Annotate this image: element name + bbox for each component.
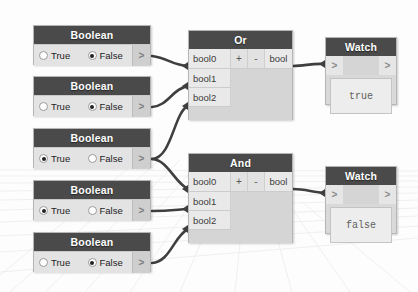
radio-selected-icon[interactable] — [39, 154, 48, 163]
boolean-node-5-true-option[interactable]: True — [39, 257, 84, 268]
boolean-node-2-false-option[interactable]: False — [88, 101, 133, 112]
boolean-node-3-title: Boolean — [34, 129, 150, 147]
wire-bool3-to-and-bool0 — [152, 159, 188, 189]
wire-or-to-watch1 — [293, 64, 325, 66]
or-node-add-port-button[interactable]: + — [231, 49, 248, 68]
boolean-node-1-false-option[interactable]: False — [88, 50, 133, 61]
boolean-node-1-true-label: True — [51, 50, 70, 61]
watch-node-2-title: Watch — [326, 167, 396, 185]
boolean-node-2-true-option[interactable]: True — [39, 101, 84, 112]
and-node-top-row: bool0 + - bool — [189, 172, 292, 192]
boolean-node-4-output-port[interactable]: > — [132, 200, 150, 221]
and-node-input-bool0[interactable]: bool0 — [189, 172, 231, 191]
and-node-input-bool1[interactable]: bool1 — [189, 192, 231, 211]
boolean-node-3-true-label: True — [51, 153, 70, 164]
boolean-node-4-title: Boolean — [34, 181, 150, 199]
radio-unselected-icon[interactable] — [39, 51, 48, 60]
wire-bool4-to-and-bool1 — [152, 209, 188, 211]
radio-unselected-icon[interactable] — [88, 206, 97, 215]
boolean-node-2-false-label: False — [100, 101, 123, 112]
watch-node-2-ports: > > — [326, 185, 396, 204]
radio-selected-icon[interactable] — [39, 206, 48, 215]
boolean-node-2-title: Boolean — [34, 77, 150, 95]
boolean-node-4-false-option[interactable]: False — [88, 205, 133, 216]
watch-node-1-value: true — [330, 78, 392, 114]
boolean-node-1-title: Boolean — [34, 26, 150, 44]
boolean-node-3-radio-group[interactable]: True False — [34, 153, 132, 164]
watch-node-1[interactable]: Watch > > true — [325, 37, 397, 105]
watch-node-1-output-port[interactable]: > — [379, 56, 396, 75]
or-node-top-row: bool0 + - bool — [189, 49, 292, 69]
boolean-node-5-row: True False > — [34, 251, 150, 273]
boolean-node-4-radio-group[interactable]: True False — [34, 205, 132, 216]
boolean-node-3[interactable]: Boolean True False > — [33, 128, 151, 168]
boolean-node-1-row: True False > — [34, 44, 150, 66]
boolean-node-3-true-option[interactable]: True — [39, 153, 84, 164]
radio-unselected-icon[interactable] — [88, 154, 97, 163]
radio-unselected-icon[interactable] — [39, 258, 48, 267]
or-node[interactable]: Or bool0 + - bool bool1 bool2 — [188, 30, 293, 120]
radio-selected-icon[interactable] — [88, 102, 97, 111]
wire-bool3-to-or-bool2 — [152, 106, 188, 159]
radio-selected-icon[interactable] — [88, 51, 97, 60]
or-node-body: bool0 + - bool bool1 bool2 — [189, 49, 292, 120]
watch-node-2-value: false — [330, 207, 392, 243]
and-node[interactable]: And bool0 + - bool bool1 bool2 — [188, 153, 293, 243]
boolean-node-2-row: True False > — [34, 95, 150, 117]
wire-bool5-to-and-bool2 — [152, 229, 188, 263]
boolean-node-3-row: True False > — [34, 147, 150, 169]
and-node-remove-port-button[interactable]: - — [248, 172, 265, 191]
boolean-node-4-true-option[interactable]: True — [39, 205, 84, 216]
or-node-remove-port-button[interactable]: - — [248, 49, 265, 68]
watch-node-2-input-port[interactable]: > — [326, 185, 343, 204]
boolean-node-1-radio-group[interactable]: True False — [34, 50, 132, 61]
boolean-node-4[interactable]: Boolean True False > — [33, 180, 151, 220]
radio-unselected-icon[interactable] — [39, 102, 48, 111]
boolean-node-5-title: Boolean — [34, 233, 150, 251]
and-node-input-bool2[interactable]: bool2 — [189, 211, 231, 230]
boolean-node-3-false-label: False — [100, 153, 123, 164]
boolean-node-5-false-option[interactable]: False — [88, 257, 133, 268]
and-node-body: bool0 + - bool bool1 bool2 — [189, 172, 292, 243]
boolean-node-2[interactable]: Boolean True False > — [33, 76, 151, 116]
watch-node-1-ports: > > — [326, 56, 396, 75]
boolean-node-3-false-option[interactable]: False — [88, 153, 133, 164]
or-node-input-bool1[interactable]: bool1 — [189, 69, 231, 88]
or-node-output-bool[interactable]: bool — [265, 49, 292, 68]
boolean-node-5-true-label: True — [51, 257, 70, 268]
boolean-node-5[interactable]: Boolean True False > — [33, 232, 151, 272]
and-node-title: And — [189, 154, 292, 172]
watch-node-2-output-port[interactable]: > — [379, 185, 396, 204]
boolean-node-5-radio-group[interactable]: True False — [34, 257, 132, 268]
boolean-node-4-false-label: False — [100, 205, 123, 216]
radio-selected-icon[interactable] — [88, 258, 97, 267]
boolean-node-5-output-port[interactable]: > — [132, 252, 150, 273]
wire-bool1-to-or-bool0 — [152, 56, 188, 66]
or-node-input-bool0[interactable]: bool0 — [189, 49, 231, 68]
boolean-node-2-radio-group[interactable]: True False — [34, 101, 132, 112]
watch-node-1-input-port[interactable]: > — [326, 56, 343, 75]
boolean-node-2-true-label: True — [51, 101, 70, 112]
watch-node-2[interactable]: Watch > > false — [325, 166, 397, 234]
wire-and-to-watch2 — [293, 189, 325, 193]
boolean-node-3-output-port[interactable]: > — [132, 148, 150, 169]
and-node-output-bool[interactable]: bool — [265, 172, 292, 191]
and-node-add-port-button[interactable]: + — [231, 172, 248, 191]
watch-node-1-title: Watch — [326, 38, 396, 56]
boolean-node-5-false-label: False — [100, 257, 123, 268]
boolean-node-1-output-port[interactable]: > — [132, 45, 150, 66]
or-node-title: Or — [189, 31, 292, 49]
boolean-node-4-true-label: True — [51, 205, 70, 216]
or-node-input-bool2[interactable]: bool2 — [189, 88, 231, 107]
boolean-node-2-output-port[interactable]: > — [132, 96, 150, 117]
wire-bool2-to-or-bool1 — [152, 86, 188, 107]
boolean-node-1[interactable]: Boolean True False > — [33, 25, 151, 65]
graph-canvas[interactable]: Boolean True False > Boolean True — [0, 0, 418, 292]
boolean-node-1-true-option[interactable]: True — [39, 50, 84, 61]
boolean-node-1-false-label: False — [100, 50, 123, 61]
boolean-node-4-row: True False > — [34, 199, 150, 221]
